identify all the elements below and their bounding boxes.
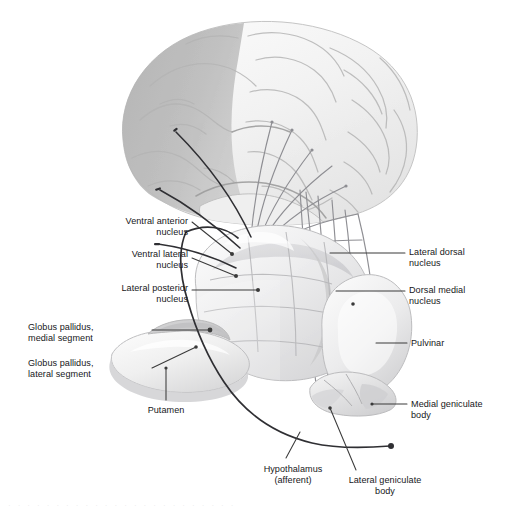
label-pulvinar: Pulvinar (411, 338, 491, 349)
label-globus-pallidus-lateral-segment: Globus pallidus, lateral segment (28, 358, 148, 381)
label-lateral-dorsal-nucleus: Lateral dorsal nucleus (409, 247, 509, 270)
label-ventral-lateral-nucleus: Ventral lateral nucleus (78, 249, 188, 272)
label-lateral-posterior-nucleus: Lateral posterior nucleus (30, 283, 188, 306)
label-hypothalamus-afferent: Hypothalamus (afferent) (243, 464, 343, 487)
label-putamen: Putamen (126, 405, 206, 416)
tract-terminal-dot (388, 443, 394, 449)
clipped-caption-band: · · · · · · · · · · · · · · · · · · · · … (0, 500, 510, 518)
label-lateral-geniculate-body: Lateral geniculate body (330, 475, 440, 498)
anatomical-figure: Ventral anterior nucleus Ventral lateral… (0, 0, 510, 518)
label-dorsal-medial-nucleus: Dorsal medial nucleus (409, 285, 509, 308)
leader-lateral-geniculate (330, 408, 356, 470)
label-ventral-anterior-nucleus: Ventral anterior nucleus (78, 216, 188, 239)
clipped-caption-text: · · · · · · · · · · · · · · · · · · · · … (8, 501, 236, 510)
cerebral-cortex (122, 21, 417, 230)
label-medial-geniculate-body: Medial geniculate body (411, 399, 509, 422)
label-globus-pallidus-medial-segment: Globus pallidus, medial segment (28, 322, 148, 345)
